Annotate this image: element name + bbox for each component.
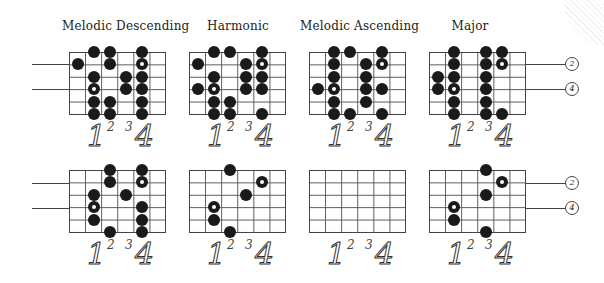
fretboard-grid-melodic-descending-lower — [69, 170, 166, 233]
note-dot — [360, 58, 372, 70]
note-dot — [344, 46, 356, 58]
finger-2-label: 2 — [227, 238, 235, 252]
finger-1-label: 1 — [207, 236, 226, 271]
root-note-dot — [208, 83, 220, 95]
note-dot — [360, 71, 372, 83]
string-ref-line-4-left-top — [32, 89, 69, 90]
title-melodic-ascending: Melodic Ascending — [300, 19, 416, 33]
note-dot — [240, 83, 252, 95]
note-dot — [120, 71, 132, 83]
finger-numbers: 1234 — [87, 118, 167, 148]
note-dot — [360, 96, 372, 108]
note-dot — [480, 189, 492, 201]
finger-4-label: 4 — [255, 236, 274, 271]
root-note-dot — [88, 201, 100, 213]
string-ref-line-2-left-top — [32, 64, 69, 65]
finger-numbers: 1234 — [87, 236, 167, 266]
finger-numbers: 1234 — [207, 118, 287, 148]
string-ref-line-2-right-top — [525, 64, 565, 65]
note-dot — [360, 83, 372, 95]
note-dot — [432, 83, 444, 95]
root-note-dot — [208, 201, 220, 213]
finger-4-label: 4 — [255, 118, 274, 153]
note-dot — [256, 71, 268, 83]
note-dot — [240, 189, 252, 201]
note-dot — [256, 83, 268, 95]
circled-string-label-2-top: 2 — [565, 57, 579, 71]
finger-4-label: 4 — [495, 118, 514, 153]
note-dot — [136, 214, 148, 226]
note-dot — [208, 71, 220, 83]
finger-3-label: 3 — [365, 238, 373, 252]
note-dot — [448, 214, 460, 226]
note-dot — [376, 46, 388, 58]
fretboard-grid-melodic-ascending — [309, 52, 406, 115]
note-dot — [480, 58, 492, 70]
note-dot — [328, 58, 340, 70]
note-dot — [432, 71, 444, 83]
finger-1-label: 1 — [207, 118, 226, 153]
string-ref-line-2-left-bottom — [32, 183, 69, 184]
finger-1-label: 1 — [327, 236, 346, 271]
note-dot — [328, 96, 340, 108]
note-dot — [208, 46, 220, 58]
finger-numbers: 1234 — [327, 118, 407, 148]
note-dot — [104, 176, 116, 188]
note-dot — [376, 83, 388, 95]
root-note-dot — [88, 83, 100, 95]
finger-numbers: 1234 — [447, 236, 527, 266]
root-note-dot — [448, 83, 460, 95]
finger-4-label: 4 — [495, 236, 514, 271]
fretboard-grid-major-lower — [429, 170, 526, 233]
note-dot — [480, 96, 492, 108]
finger-numbers: 1234 — [447, 118, 527, 148]
fretboard-grid-major — [429, 52, 526, 115]
note-dot — [120, 83, 132, 95]
note-dot — [88, 71, 100, 83]
note-dot — [104, 58, 116, 70]
note-dot — [480, 71, 492, 83]
root-note-dot — [376, 58, 388, 70]
note-dot — [224, 164, 236, 176]
note-dot — [496, 46, 508, 58]
note-dot — [224, 96, 236, 108]
finger-2-label: 2 — [347, 238, 355, 252]
finger-2-label: 2 — [227, 120, 235, 134]
note-dot — [328, 71, 340, 83]
note-dot — [88, 189, 100, 201]
note-dot — [448, 58, 460, 70]
note-dot — [136, 71, 148, 83]
note-dot — [480, 164, 492, 176]
note-dot — [448, 71, 460, 83]
string-ref-line-4-left-bottom — [32, 208, 69, 209]
note-dot — [480, 83, 492, 95]
finger-1-label: 1 — [447, 118, 466, 153]
note-dot — [192, 83, 204, 95]
finger-1-label: 1 — [87, 118, 106, 153]
string-ref-line-2-right-bottom — [525, 183, 565, 184]
note-dot — [328, 46, 340, 58]
title-harmonic: Harmonic — [188, 19, 288, 33]
note-dot — [192, 58, 204, 70]
finger-1-label: 1 — [327, 118, 346, 153]
root-note-dot — [496, 58, 508, 70]
finger-3-label: 3 — [365, 120, 373, 134]
root-note-dot — [328, 83, 340, 95]
circled-string-label-4-bottom: 4 — [565, 201, 579, 215]
fretboard-grid-melodic-ascending-lower — [309, 170, 406, 233]
note-dot — [136, 201, 148, 213]
note-dot — [72, 58, 84, 70]
note-dot — [136, 83, 148, 95]
finger-3-label: 3 — [245, 238, 253, 252]
finger-2-label: 2 — [107, 120, 115, 134]
finger-4-label: 4 — [135, 118, 154, 153]
finger-2-label: 2 — [347, 120, 355, 134]
title-major: Major — [430, 19, 510, 33]
note-dot — [240, 71, 252, 83]
note-dot — [88, 214, 100, 226]
finger-3-label: 3 — [125, 120, 133, 134]
finger-3-label: 3 — [125, 238, 133, 252]
finger-1-label: 1 — [87, 236, 106, 271]
note-dot — [224, 46, 236, 58]
note-dot — [136, 164, 148, 176]
